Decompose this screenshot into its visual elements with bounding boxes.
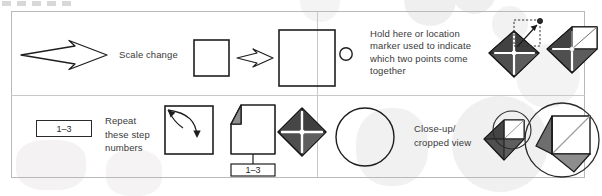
scale-change-symbol-group <box>193 29 317 89</box>
small-block-arrow-icon <box>237 49 273 67</box>
small-square-icon <box>194 40 229 76</box>
magnified-crop-circle-icon <box>522 100 602 180</box>
open-block-arrow-icon <box>19 39 109 71</box>
boxed-step-range: 1–3 <box>36 120 92 137</box>
legend-entry-hold-here-marker: Hold here or location marker used to ind… <box>318 11 585 95</box>
legend-entry-scale-change: Scale change <box>11 11 317 95</box>
page-step-range: 1–3 <box>245 165 260 175</box>
scan-artifact-top <box>2 1 76 6</box>
open-circle-icon <box>334 106 396 168</box>
legend-entry-repeat-step-numbers: 1–3 Repeat these step numbers 1–3 <box>11 96 317 178</box>
legend-entry-close-up-cropped-view: Close-up/ cropped view <box>318 96 585 178</box>
open-circle-marker-icon <box>338 46 354 62</box>
hold-here-marker-label: Hold here or location marker used to ind… <box>370 28 492 78</box>
diamond-folded-icon <box>544 23 600 79</box>
diamond-with-dashed-arrow-icon <box>486 17 548 79</box>
square-with-curved-arrow-icon <box>163 104 217 158</box>
